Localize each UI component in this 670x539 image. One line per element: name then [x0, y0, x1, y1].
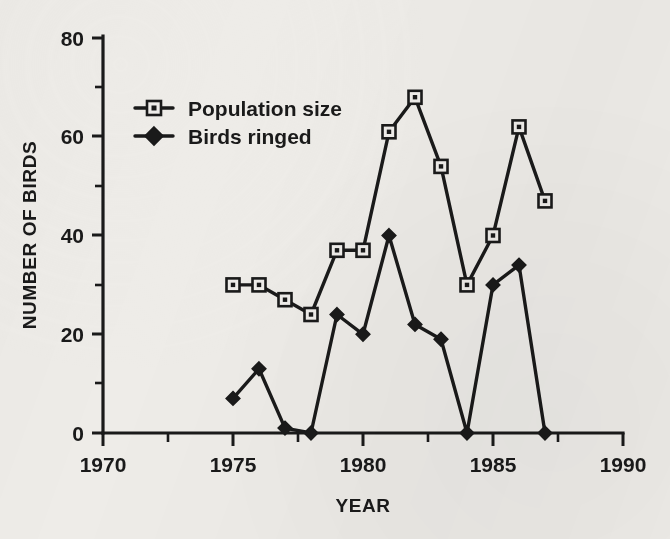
data-point-marker-core: [491, 233, 495, 237]
x-tick-label-1985: 1985: [470, 453, 517, 476]
data-point-marker-core: [335, 248, 339, 252]
data-point-marker-core: [413, 95, 417, 99]
x-tick-label-1980: 1980: [340, 453, 387, 476]
y-tick-label-40: 40: [61, 224, 84, 247]
legend-label-population-size: Population size: [188, 97, 342, 120]
bird-population-line-chart: 0 20 40 60 80 1970 1975 1980 1985 1990: [0, 0, 670, 539]
data-point-marker-core: [257, 283, 261, 287]
legend-label-birds-ringed: Birds ringed: [188, 125, 312, 148]
data-point-marker-core: [465, 283, 469, 287]
y-tick-label-80: 80: [61, 27, 84, 50]
data-point-marker-core: [309, 312, 313, 316]
x-tick-label-1975: 1975: [210, 453, 257, 476]
y-axis-title: NUMBER OF BIRDS: [19, 141, 40, 329]
data-point-marker-core: [517, 125, 521, 129]
data-point-marker-core: [231, 283, 235, 287]
open-square-icon-core: [152, 106, 157, 111]
x-tick-label-1970: 1970: [80, 453, 127, 476]
y-tick-label-20: 20: [61, 323, 84, 346]
chart-figure: 0 20 40 60 80 1970 1975 1980 1985 1990: [0, 0, 670, 539]
data-point-marker-core: [361, 248, 365, 252]
data-point-marker-core: [543, 199, 547, 203]
x-axis-title: YEAR: [335, 495, 390, 516]
y-tick-label-60: 60: [61, 125, 84, 148]
data-point-marker-core: [387, 130, 391, 134]
y-tick-label-0: 0: [72, 422, 84, 445]
data-point-marker-core: [439, 164, 443, 168]
x-tick-label-1990: 1990: [600, 453, 647, 476]
data-point-marker-core: [283, 298, 287, 302]
